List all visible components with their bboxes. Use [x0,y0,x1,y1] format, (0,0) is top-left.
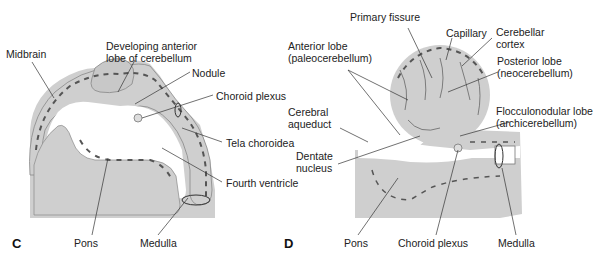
label-pons-c: Pons [74,237,98,249]
label-flocculonodular-lobe: Flocculonodular lobe (archicerebellum) [496,105,593,129]
label-dentate-nucleus: Dentate nucleus [296,150,333,174]
panel-letter-c: C [12,236,21,251]
label-cerebellar-cortex: Cerebellar cortex [496,26,544,50]
label-choroid-plexus-c: Choroid plexus [216,90,286,102]
panel-c-illustration [30,59,222,235]
panel-d-cerebellum-dome [390,45,490,145]
label-choroid-plexus-d: Choroid plexus [398,237,468,249]
panel-d-medulla-tube [495,146,515,164]
label-midbrain: Midbrain [6,48,46,60]
label-tela-choroidea: Tela choroidea [226,137,294,149]
label-medulla-c: Medulla [140,237,177,249]
label-cerebral-aqueduct: Cerebral aqueduct [288,106,331,130]
label-primary-fissure: Primary fissure [350,11,420,23]
label-developing-anterior-lobe: Developing anterior lobe of cerebellum [106,40,197,64]
label-nodule: Nodule [192,67,225,79]
label-capillary: Capillary [446,27,487,39]
label-pons-d: Pons [344,237,368,249]
cerebellum-development-figure: Midbrain Developing anterior lobe of cer… [0,0,604,258]
label-fourth-ventricle: Fourth ventricle [226,177,298,189]
label-medulla-d: Medulla [498,237,535,249]
panel-c-choroid-plexus-tuft [134,114,142,122]
label-posterior-lobe: Posterior lobe (neocerebellum) [497,55,573,79]
label-anterior-lobe: Anterior lobe (paleocerebellum) [288,40,372,64]
panel-letter-d: D [284,236,293,251]
